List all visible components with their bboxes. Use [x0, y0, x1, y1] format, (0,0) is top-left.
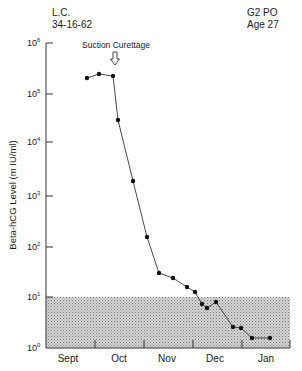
y-axis-label: Beta-hCG Level (m IU/ml) — [7, 140, 18, 249]
svg-text:100: 100 — [27, 342, 41, 353]
svg-text:106: 106 — [27, 37, 41, 48]
svg-text:105: 105 — [27, 88, 41, 99]
svg-text:101: 101 — [27, 291, 41, 302]
svg-text:Dec: Dec — [206, 353, 224, 364]
svg-text:104: 104 — [27, 136, 41, 147]
y-tick-labels: 106 105 104 103 102 101 100 — [27, 37, 41, 353]
beta-hcg-chart: 106 105 104 103 102 101 100 Sept Oct Nov… — [0, 0, 302, 371]
reference-band — [46, 297, 290, 348]
x-tick-labels: Sept Oct Nov Dec Jan — [58, 353, 274, 364]
svg-text:Nov: Nov — [158, 353, 176, 364]
svg-text:103: 103 — [27, 190, 41, 201]
down-arrow-icon — [111, 52, 120, 65]
svg-text:Sept: Sept — [58, 353, 79, 364]
svg-text:Oct: Oct — [111, 353, 127, 364]
svg-text:Jan: Jan — [258, 353, 274, 364]
svg-text:102: 102 — [27, 241, 41, 252]
